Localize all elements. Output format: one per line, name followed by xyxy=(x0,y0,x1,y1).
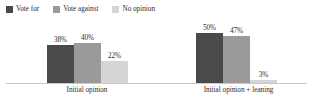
chart-legend: Vote for Vote against No opinion xyxy=(6,3,155,15)
bar-slot-leaning-no-opinion[interactable]: 3% xyxy=(250,19,277,83)
legend-item-vote-against[interactable]: Vote against xyxy=(53,5,98,13)
axis-baseline xyxy=(6,83,307,84)
bar-leaning-vote-against xyxy=(223,36,250,83)
bar-slot-leaning-vote-for[interactable]: 50% xyxy=(196,19,223,83)
legend-label-vote-for: Vote for xyxy=(16,5,39,13)
legend-item-no-opinion[interactable]: No opinion xyxy=(112,5,155,13)
bar-value-label: 47% xyxy=(223,27,250,35)
category-label-initial-opinion-leaning: Initial opinion + leaning xyxy=(166,86,311,95)
bar-initial-opinion-vote-against xyxy=(74,43,101,83)
legend-item-vote-for[interactable]: Vote for xyxy=(6,5,39,13)
bar-chart: Vote for Vote against No opinion 38% 40% xyxy=(0,0,311,106)
legend-label-no-opinion: No opinion xyxy=(122,5,155,13)
bar-leaning-vote-for xyxy=(196,33,223,83)
legend-label-vote-against: Vote against xyxy=(63,5,98,13)
category-axis: Initial opinion Initial opinion + leanin… xyxy=(0,86,311,100)
bar-value-label: 40% xyxy=(74,34,101,42)
bar-value-label: 38% xyxy=(47,36,74,44)
bar-initial-opinion-vote-for xyxy=(47,45,74,83)
category-label-initial-opinion: Initial opinion xyxy=(27,86,147,95)
bar-slot-initial-opinion-no-opinion[interactable]: 22% xyxy=(101,19,128,83)
plot-area: 38% 40% 22% 50% 47% xyxy=(0,18,311,84)
bar-slot-leaning-vote-against[interactable]: 47% xyxy=(223,19,250,83)
bar-initial-opinion-no-opinion xyxy=(101,61,128,83)
legend-swatch-no-opinion xyxy=(112,6,119,13)
legend-swatch-vote-for xyxy=(6,6,13,13)
bar-value-label: 50% xyxy=(196,24,223,32)
bar-slot-initial-opinion-vote-for[interactable]: 38% xyxy=(47,19,74,83)
bar-value-label: 22% xyxy=(101,52,128,60)
bar-value-label: 3% xyxy=(250,71,277,79)
legend-swatch-vote-against xyxy=(53,6,60,13)
bar-slot-initial-opinion-vote-against[interactable]: 40% xyxy=(74,19,101,83)
